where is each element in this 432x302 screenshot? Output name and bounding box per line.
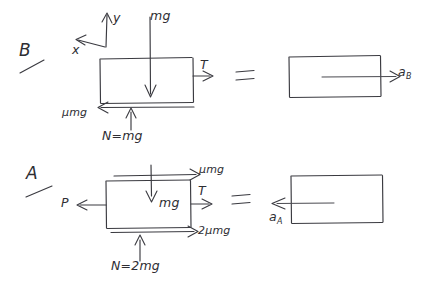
force-top-friction-a xyxy=(114,169,200,180)
acceleration-a-subscript: A xyxy=(277,217,283,226)
label-acceleration-b: aB xyxy=(398,64,412,81)
label-applied-a: P xyxy=(61,195,69,210)
block-b-outline xyxy=(100,58,194,104)
block-a-result-outline xyxy=(291,175,383,224)
force-tension-a xyxy=(191,199,212,209)
diagram-canvas xyxy=(0,0,432,302)
force-weight-a xyxy=(146,165,157,202)
acceleration-arrow-a xyxy=(272,198,334,209)
label-friction-b: μmg xyxy=(62,106,87,119)
coordinate-axes xyxy=(76,13,112,47)
label-weight-b: mg xyxy=(150,8,171,23)
equals-sign-b xyxy=(236,71,254,81)
label-weight-a: mg xyxy=(159,195,180,210)
label-tension-a: T xyxy=(198,183,206,198)
case-b-underline xyxy=(20,60,44,73)
label-top-friction-a: μmg xyxy=(199,163,224,176)
label-bottom-friction-a: 2μmg xyxy=(198,224,231,237)
label-normal-b: N=mg xyxy=(102,128,143,143)
acceleration-arrow-b xyxy=(322,71,400,82)
label-tension-b: T xyxy=(200,57,208,72)
force-tension-b xyxy=(193,71,213,81)
case-label-a: A xyxy=(26,163,38,183)
acceleration-b-symbol: a xyxy=(398,64,406,79)
label-acceleration-a: aA xyxy=(269,209,283,226)
acceleration-a-symbol: a xyxy=(269,209,277,224)
case-label-b: B xyxy=(19,40,31,60)
force-normal-b xyxy=(126,108,136,130)
force-weight-b xyxy=(145,17,156,97)
equals-sign-a xyxy=(232,195,250,205)
label-normal-a: N=2mg xyxy=(111,258,160,273)
axis-x-label: x xyxy=(72,42,80,57)
force-applied-a xyxy=(77,200,106,210)
case-a-underline xyxy=(26,186,52,197)
acceleration-b-subscript: B xyxy=(406,72,412,81)
axis-y-label: y xyxy=(113,10,121,25)
